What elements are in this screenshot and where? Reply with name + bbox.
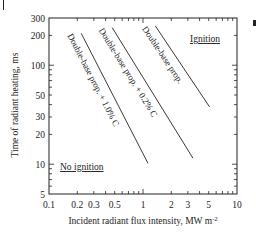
y-tick-label: 300 [31, 14, 46, 24]
x-tick-label: 1 [141, 200, 146, 210]
y-tick-label: 100 [31, 61, 46, 71]
series-labels: Double-base prop. + 1.0% CDouble-base pr… [65, 24, 185, 128]
series-label: Double-base prop. [140, 24, 185, 85]
x-tick-label: 5 [206, 200, 211, 210]
y-axis-title: Time of radiant heating, ms [10, 52, 20, 157]
x-tick-label: 2 [169, 200, 174, 210]
x-tick-label: 0.2 [71, 200, 83, 210]
x-tick-label: 10 [232, 200, 242, 210]
y-tick-labels: 510203050100200300 [31, 14, 46, 200]
x-tick-label: 3 [185, 200, 190, 210]
y-tick-label: 50 [36, 91, 46, 101]
annotation-ignition: Ignition [190, 34, 220, 44]
y-tick-label: 20 [36, 130, 46, 140]
y-tick-label: 200 [31, 31, 46, 41]
x-tick-label: 0.1 [43, 200, 55, 210]
y-tick-label: 30 [36, 112, 46, 122]
annotation-no-ignition: No ignition [60, 162, 104, 172]
y-tick-label: 10 [36, 160, 46, 170]
chart: 0.10.20.30.5123510 510203050100200300 Do… [0, 0, 256, 234]
x-tick-label: 0.5 [109, 200, 121, 210]
x-axis-title: Incident radiant flux intensity, MW m-2 [68, 215, 217, 226]
x-tick-label: 0.3 [88, 200, 100, 210]
x-tick-labels: 0.10.20.30.5123510 [43, 200, 242, 210]
y-tick-label: 5 [40, 190, 45, 200]
